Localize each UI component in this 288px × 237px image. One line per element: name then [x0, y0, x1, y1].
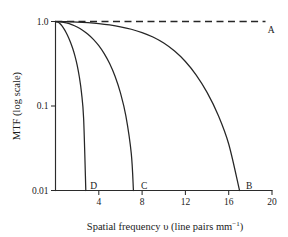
x-axis-tick-marks: [99, 191, 272, 196]
chart-canvas: 1.00.10.01 48121620 ABCD Spatial frequen…: [0, 0, 288, 237]
x-tick-label-20: 20: [267, 197, 277, 207]
y-axis-tick-labels: 1.00.10.01: [32, 17, 49, 196]
mtf-curves-group: [56, 22, 266, 191]
x-axis-tick-labels: 48121620: [96, 197, 277, 207]
x-axis-title: Spatial frequency υ (line pairs mm−1): [87, 220, 244, 233]
x-tick-label-16: 16: [224, 197, 234, 207]
axes-group: [56, 22, 273, 191]
y-tick-label-1.0: 1.0: [37, 17, 49, 27]
mtf-curve-D: [56, 22, 86, 191]
curve-label-C: C: [141, 181, 147, 191]
y-axis-title: MTF (log scale): [11, 71, 23, 140]
curve-label-B: B: [246, 181, 252, 191]
x-tick-label-8: 8: [140, 197, 145, 207]
x-tick-label-12: 12: [181, 197, 191, 207]
y-tick-label-0.1: 0.1: [37, 101, 49, 111]
mtf-curve-C: [56, 22, 134, 191]
curve-label-D: D: [90, 181, 97, 191]
curve-annotation-labels: ABCD: [90, 25, 275, 191]
x-tick-label-4: 4: [96, 197, 101, 207]
mtf-chart-figure: 1.00.10.01 48121620 ABCD Spatial frequen…: [0, 0, 288, 237]
curve-label-A: A: [268, 25, 275, 35]
y-tick-label-0.01: 0.01: [32, 186, 49, 196]
y-axis-tick-marks: [51, 22, 56, 191]
